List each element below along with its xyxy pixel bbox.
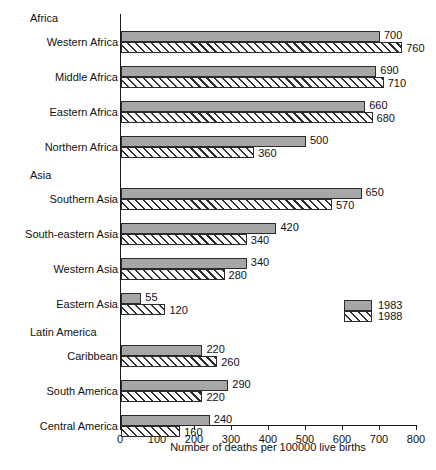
bar-1983 bbox=[121, 293, 141, 304]
bar-value-1988: 220 bbox=[206, 392, 224, 403]
bar-1983 bbox=[121, 258, 247, 269]
category-label-central-america: Central America bbox=[40, 420, 118, 432]
bar-1988 bbox=[121, 269, 225, 280]
x-tick-300 bbox=[231, 425, 232, 430]
category-label-south-eastern-asia: South-eastern Asia bbox=[25, 228, 118, 240]
bar-value-1983: 240 bbox=[214, 414, 232, 425]
bar-value-1988: 340 bbox=[251, 235, 269, 246]
legend: 1983 1988 bbox=[344, 300, 418, 322]
category-label-south-america: South America bbox=[46, 385, 118, 397]
bar-1988 bbox=[121, 199, 332, 210]
bar-1988 bbox=[121, 147, 254, 158]
bar-value-1988: 680 bbox=[377, 113, 395, 124]
bar-value-1983: 500 bbox=[310, 135, 328, 146]
bar-value-1988: 360 bbox=[258, 148, 276, 159]
bar-value-1988: 280 bbox=[229, 270, 247, 281]
bar-1983 bbox=[121, 415, 210, 426]
bar-value-1983: 700 bbox=[384, 30, 402, 41]
x-tick-400 bbox=[268, 425, 269, 430]
category-label-northern-africa: Northern Africa bbox=[45, 141, 118, 153]
category-label-caribbean: Caribbean bbox=[67, 350, 118, 362]
bar-value-1988: 760 bbox=[406, 43, 424, 54]
bar-1988 bbox=[121, 234, 247, 245]
legend-label-1988: 1988 bbox=[378, 310, 402, 322]
bar-value-1983: 650 bbox=[366, 187, 384, 198]
group-header-africa: Africa bbox=[30, 12, 58, 24]
bar-1988 bbox=[121, 426, 180, 437]
legend-item-1988: 1988 bbox=[344, 311, 418, 322]
category-label-southern-asia: Southern Asia bbox=[50, 193, 119, 205]
category-label-eastern-africa: Eastern Africa bbox=[50, 106, 118, 118]
bar-value-1983: 340 bbox=[251, 257, 269, 268]
bar-value-1983: 660 bbox=[369, 100, 387, 111]
bar-1983 bbox=[121, 101, 365, 112]
x-tick-800 bbox=[416, 425, 417, 430]
category-label-eastern-asia: Eastern Asia bbox=[56, 298, 118, 310]
bar-1983 bbox=[121, 31, 380, 42]
bar-1988 bbox=[121, 42, 402, 53]
bar-value-1988: 160 bbox=[184, 427, 202, 438]
bar-value-1983: 55 bbox=[145, 292, 157, 303]
bar-1988 bbox=[121, 112, 373, 123]
bar-1983 bbox=[121, 66, 376, 77]
x-tick-500 bbox=[305, 425, 306, 430]
x-tick-600 bbox=[342, 425, 343, 430]
category-label-western-africa: Western Africa bbox=[47, 36, 118, 48]
bar-1983 bbox=[121, 223, 276, 234]
bar-1983 bbox=[121, 188, 362, 199]
bar-value-1983: 690 bbox=[380, 65, 398, 76]
bar-1983 bbox=[121, 136, 306, 147]
bar-1988 bbox=[121, 356, 217, 367]
bar-value-1983: 220 bbox=[206, 344, 224, 355]
group-header-asia: Asia bbox=[30, 169, 51, 181]
bar-chart: AfricaAsiaLatin America Western AfricaMi… bbox=[0, 0, 436, 470]
x-tick-700 bbox=[379, 425, 380, 430]
bar-value-1988: 710 bbox=[388, 78, 406, 89]
category-label-western-asia: Western Asia bbox=[53, 263, 118, 275]
bar-value-1983: 290 bbox=[232, 379, 250, 390]
plot-area: 0100200300400500600700800 70076069071066… bbox=[120, 14, 416, 425]
bar-1988 bbox=[121, 304, 165, 315]
bar-1983 bbox=[121, 345, 202, 356]
bar-value-1983: 420 bbox=[280, 222, 298, 233]
bar-1983 bbox=[121, 380, 228, 391]
x-axis-label: Number of deaths per 100000 live births bbox=[120, 441, 416, 454]
bar-value-1988: 260 bbox=[221, 357, 239, 368]
bar-value-1988: 570 bbox=[336, 200, 354, 211]
legend-swatch-1983 bbox=[344, 300, 372, 311]
category-label-middle-africa: Middle Africa bbox=[55, 71, 118, 83]
group-header-latin-america: Latin America bbox=[30, 326, 97, 338]
bar-value-1988: 120 bbox=[169, 305, 187, 316]
legend-swatch-1988 bbox=[344, 311, 372, 322]
bar-1988 bbox=[121, 77, 384, 88]
bar-1988 bbox=[121, 391, 202, 402]
